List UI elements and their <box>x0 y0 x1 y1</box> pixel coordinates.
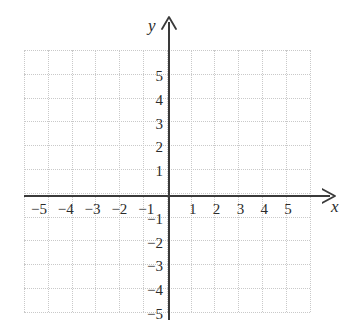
gridline-vertical <box>72 50 73 312</box>
y-tick-label-1: 1 <box>133 164 163 179</box>
gridline-vertical <box>48 50 49 312</box>
y-tick-label-2: 2 <box>133 140 163 155</box>
x-axis-label: x <box>331 198 339 215</box>
gridline-horizontal <box>24 312 310 313</box>
y-tick-label-4-neg: −4 <box>131 283 163 298</box>
gridline-vertical <box>24 50 25 312</box>
gridline-vertical <box>238 50 239 312</box>
x-tick-label-4: 4 <box>252 202 276 217</box>
x-tick-label-3-neg: −3 <box>85 202 112 217</box>
grid <box>24 50 310 312</box>
x-tick-label-4-neg: −4 <box>58 202 85 217</box>
gridline-horizontal <box>24 169 310 170</box>
gridline-horizontal <box>24 98 310 99</box>
gridline-vertical <box>262 50 263 312</box>
y-tick-label-3-neg: −3 <box>131 259 163 274</box>
coordinate-plane-figure: x y 12345−5−4−3−2−154321−1−2−3−4−5 <box>0 0 352 331</box>
gridline-vertical <box>119 50 120 312</box>
y-tick-label-1-neg: −1 <box>131 212 163 227</box>
x-tick-label-1: 1 <box>181 202 205 217</box>
gridline-horizontal <box>24 264 310 265</box>
y-tick-label-5: 5 <box>133 69 163 84</box>
y-tick-label-2-neg: −2 <box>131 236 163 251</box>
gridline-vertical <box>286 50 287 312</box>
gridline-vertical <box>310 50 311 312</box>
gridline-horizontal <box>24 193 310 194</box>
y-axis-arrow-icon <box>159 16 179 30</box>
y-axis-label: y <box>148 17 156 34</box>
gridline-horizontal <box>24 74 310 75</box>
gridline-horizontal <box>24 50 310 51</box>
y-tick-label-4: 4 <box>133 93 163 108</box>
gridline-horizontal <box>24 240 310 241</box>
x-tick-label-5-neg: −5 <box>31 202 58 217</box>
x-tick-label-2: 2 <box>205 202 229 217</box>
gridline-vertical <box>95 50 96 312</box>
gridline-vertical <box>191 50 192 312</box>
y-axis-line <box>168 22 170 320</box>
y-tick-label-3: 3 <box>133 117 163 132</box>
x-axis-line <box>24 195 330 197</box>
x-tick-label-5: 5 <box>276 202 300 217</box>
gridline-vertical <box>214 50 215 312</box>
gridline-horizontal <box>24 145 310 146</box>
x-tick-label-3: 3 <box>228 202 252 217</box>
y-tick-label-5-neg: −5 <box>131 307 163 322</box>
gridline-horizontal <box>24 288 310 289</box>
gridline-horizontal <box>24 121 310 122</box>
